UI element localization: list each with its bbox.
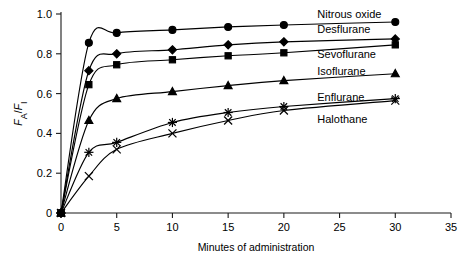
data-point [225,23,232,30]
data-point [225,53,231,59]
x-axis-ticks: 05101520253035 [58,213,457,233]
data-point [85,39,92,46]
x-tick-label: 0 [58,221,64,233]
data-point [280,21,287,28]
data-point [392,18,399,25]
y-tick-label: 0.2 [37,167,52,179]
y-axis-title-text: FA/FI [12,101,29,125]
data-point [86,82,92,88]
x-tick-label: 5 [114,221,120,233]
series-label: Enflurane [317,91,364,103]
y-axis-title-sub-i: I [19,101,29,104]
y-tick-label: 0 [46,207,52,219]
data-point [392,42,398,48]
x-tick-label: 30 [389,221,401,233]
data-point [280,38,288,46]
y-axis: 00.20.40.60.81.0 [37,8,61,219]
chart-container: 00.20.40.60.81.0 05101520253035 Nitrous … [0,0,466,255]
y-axis-title: FA/FI [12,101,29,125]
y-tick-label: 0.6 [37,88,52,100]
data-point [281,50,287,56]
x-axis: 05101520253035 [58,213,457,233]
y-tick-label: 0.8 [37,48,52,60]
data-point [168,46,176,54]
x-tick-label: 10 [166,221,178,233]
series-label: Isoflurane [317,65,365,77]
series-label: Nitrous oxide [317,8,381,20]
series-desflurane [57,35,399,217]
x-tick-label: 20 [278,221,290,233]
data-point [85,67,93,75]
y-tick-label: 0.4 [37,127,52,139]
fa-fi-uptake-line-chart: 00.20.40.60.81.0 05101520253035 Nitrous … [0,0,466,255]
series-label: Sevoflurane [317,48,376,60]
data-point [391,70,399,77]
series-label-layer: Nitrous oxideDesfluraneSevofluraneIsoflu… [317,8,381,125]
data-point [113,50,121,58]
series-label: Halothane [317,113,367,125]
data-point [113,29,120,36]
data-point [169,57,175,63]
y-tick-label: 1.0 [37,8,52,20]
data-point [85,116,93,123]
x-tick-label: 35 [445,221,457,233]
x-tick-label: 15 [222,221,234,233]
data-point [224,41,232,49]
x-tick-label: 25 [333,221,345,233]
y-axis-ticks: 00.20.40.60.81.0 [37,8,61,219]
x-axis-title: Minutes of administration [198,241,315,253]
series-label: Desflurane [317,23,370,35]
data-point [114,62,120,68]
data-point [169,26,176,33]
